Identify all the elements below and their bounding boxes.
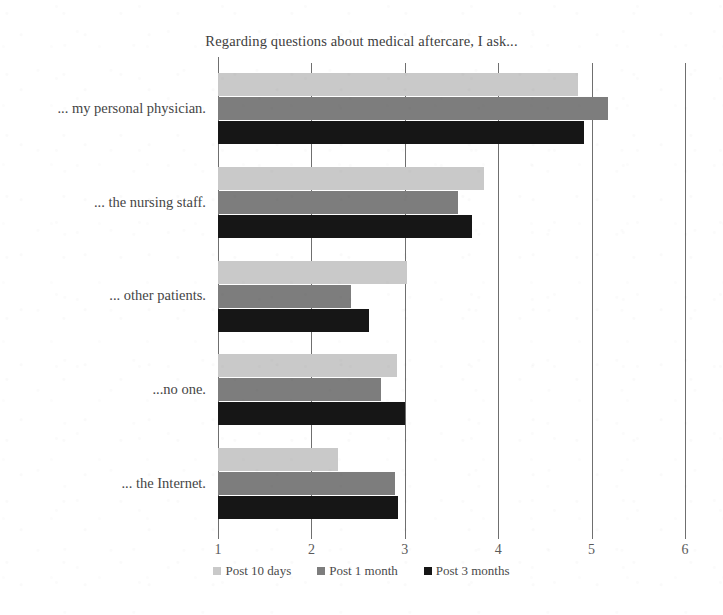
x-tick-label: 3 bbox=[385, 542, 425, 558]
x-tick bbox=[405, 532, 406, 539]
x-tick bbox=[311, 532, 312, 539]
x-tick-label: 5 bbox=[572, 542, 612, 558]
bar-group: ... other patients. bbox=[218, 251, 685, 345]
category-label: ...no one. bbox=[6, 381, 206, 398]
category-label: ... my personal physician. bbox=[6, 100, 206, 117]
bar bbox=[218, 191, 458, 214]
x-tick bbox=[218, 532, 219, 539]
legend-item[interactable]: Post 10 days bbox=[213, 563, 291, 579]
category-label: ... other patients. bbox=[6, 287, 206, 304]
bar bbox=[218, 167, 484, 190]
bar bbox=[218, 309, 369, 332]
bar-group: ... the nursing staff. bbox=[218, 157, 685, 251]
bar bbox=[218, 215, 472, 238]
legend-label: Post 1 month bbox=[329, 563, 398, 579]
bar bbox=[218, 448, 338, 471]
bar bbox=[218, 354, 397, 377]
plot-area: 123456 ... my personal physician.... the… bbox=[218, 63, 685, 532]
x-tick-label: 2 bbox=[291, 542, 331, 558]
bar bbox=[218, 73, 578, 96]
bar bbox=[218, 97, 608, 120]
x-tick-label: 1 bbox=[198, 542, 238, 558]
x-tick bbox=[685, 532, 686, 539]
bar-group: ... my personal physician. bbox=[218, 63, 685, 157]
legend-label: Post 3 months bbox=[436, 563, 510, 579]
bar bbox=[218, 261, 407, 284]
bar bbox=[218, 472, 395, 495]
x-tick-label: 6 bbox=[665, 542, 705, 558]
legend-swatch-icon bbox=[424, 567, 432, 575]
x-tick bbox=[592, 532, 593, 539]
gridline bbox=[685, 63, 686, 532]
bar bbox=[218, 285, 351, 308]
chart-legend: Post 10 daysPost 1 monthPost 3 months bbox=[0, 563, 723, 579]
bar bbox=[218, 496, 398, 519]
legend-swatch-icon bbox=[213, 567, 221, 575]
legend-item[interactable]: Post 3 months bbox=[424, 563, 510, 579]
legend-item[interactable]: Post 1 month bbox=[317, 563, 398, 579]
bar bbox=[218, 378, 381, 401]
bar-group: ... the Internet. bbox=[218, 438, 685, 532]
legend-swatch-icon bbox=[317, 567, 325, 575]
category-label: ... the nursing staff. bbox=[6, 194, 206, 211]
bar-group: ...no one. bbox=[218, 344, 685, 438]
category-label: ... the Internet. bbox=[6, 475, 206, 492]
x-tick bbox=[498, 532, 499, 539]
legend-label: Post 10 days bbox=[225, 563, 291, 579]
chart-title: Regarding questions about medical afterc… bbox=[0, 33, 723, 50]
bar bbox=[218, 121, 584, 144]
x-tick-label: 4 bbox=[478, 542, 518, 558]
bar bbox=[218, 402, 405, 425]
